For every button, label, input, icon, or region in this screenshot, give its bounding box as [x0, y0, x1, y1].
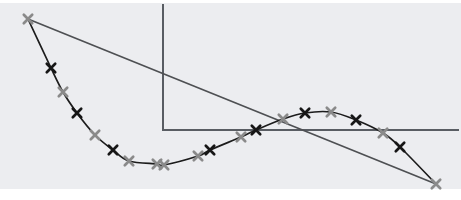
interpolation-plot: [0, 0, 461, 200]
plot-background: [0, 3, 461, 189]
curve-figure: [0, 0, 461, 200]
